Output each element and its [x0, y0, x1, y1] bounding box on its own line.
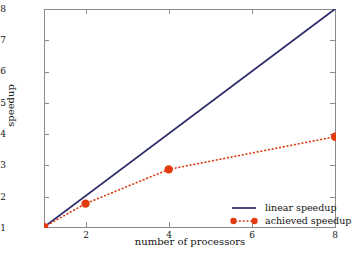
- y-tick-label: 6: [0, 67, 6, 76]
- y-tick-label: 2: [0, 193, 6, 202]
- legend-entry-achieved: achieved speedup: [230, 214, 351, 227]
- legend: linear speedup achieved speedup: [230, 201, 351, 227]
- y-tick-label: 5: [0, 99, 6, 108]
- y-tick-label: 1: [0, 224, 6, 233]
- series-linear-speedup: [44, 9, 335, 227]
- y-tick-label: 8: [0, 5, 6, 14]
- data-plot-svg: [44, 9, 336, 228]
- y-tick-label: 7: [0, 36, 6, 45]
- legend-label-linear: linear speedup: [265, 202, 337, 213]
- y-tick-label: 3: [0, 161, 6, 170]
- data-point-marker: [331, 132, 336, 140]
- data-point-marker: [81, 199, 89, 207]
- x-axis-label: number of processors: [44, 236, 336, 247]
- plot-area: 2 4 6 8 linear speedup: [44, 9, 336, 228]
- legend-entry-linear: linear speedup: [230, 201, 351, 214]
- legend-label-achieved: achieved speedup: [265, 215, 351, 226]
- legend-key-dotted-line-with-dots-icon: [230, 214, 260, 227]
- legend-key-solid-line-icon: [230, 201, 260, 214]
- chart-figure: speedup 8 7 6 5 4 3 2 1: [0, 0, 355, 262]
- data-point-marker: [165, 165, 173, 173]
- y-axis-label: speedup: [5, 74, 16, 138]
- y-tick-label: 4: [0, 130, 6, 139]
